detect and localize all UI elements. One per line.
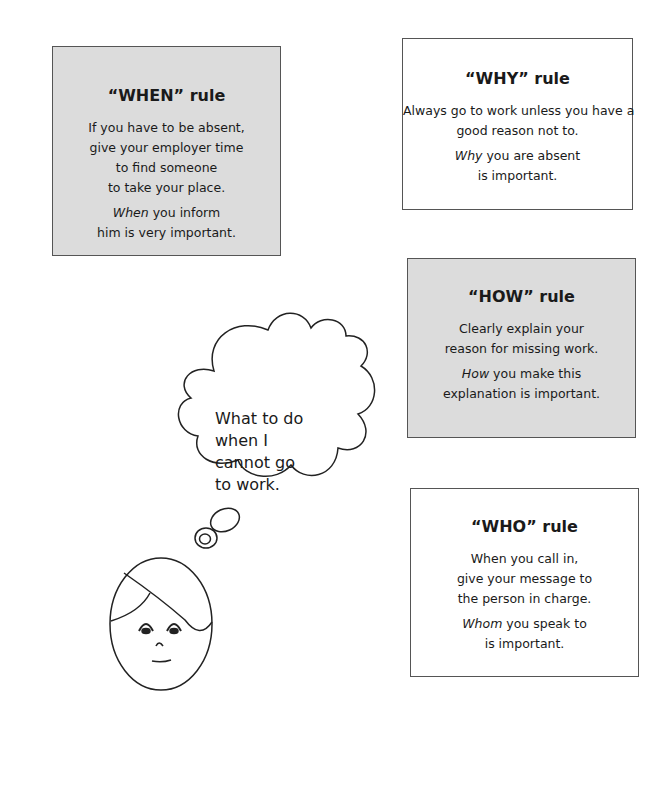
rule-text: good reason not to.: [403, 121, 632, 141]
rule-title: “WHY” rule: [403, 69, 632, 89]
who-rule-card: “WHO” rule When you call in, give your m…: [410, 488, 639, 677]
rule-title: “WHEN” rule: [53, 86, 280, 106]
rule-title: “WHO” rule: [411, 517, 638, 537]
rule-text: give your message to: [411, 569, 638, 589]
rule-text: Clearly explain your: [408, 319, 635, 339]
rule-text: Always go to work unless you have a: [403, 101, 632, 121]
rule-emphasis: Whom you speak to: [411, 614, 638, 634]
rule-text: him is very important.: [53, 223, 280, 243]
rule-text: When you call in,: [411, 549, 638, 569]
emphasis-word: Why: [455, 148, 483, 163]
rule-text: you are absent: [482, 148, 580, 163]
rule-emphasis: How you make this: [408, 364, 635, 384]
thought-line: to work.: [215, 474, 303, 496]
rule-text: is important.: [403, 166, 632, 186]
rule-text: to take your place.: [53, 178, 280, 198]
why-rule-card: “WHY” rule Always go to work unless you …: [402, 38, 633, 210]
emphasis-word: How: [462, 366, 489, 381]
how-rule-card: “HOW” rule Clearly explain your reason f…: [407, 258, 636, 438]
rule-text: the person in charge.: [411, 589, 638, 609]
rule-text: you make this: [489, 366, 581, 381]
rule-text: explanation is important.: [408, 384, 635, 404]
rule-emphasis: Why you are absent: [403, 146, 632, 166]
rule-text: you inform: [149, 205, 220, 220]
rule-text: If you have to be absent,: [53, 118, 280, 138]
thought-line: when I: [215, 430, 303, 452]
thought-line: What to do: [215, 408, 303, 430]
thought-bubble-text: What to do when I cannot go to work.: [215, 408, 303, 496]
rule-text: to find someone: [53, 158, 280, 178]
person-face-icon: [110, 558, 212, 690]
rule-text: give your employer time: [53, 138, 280, 158]
emphasis-word: Whom: [462, 616, 502, 631]
thought-tail-icon: [195, 504, 243, 548]
rule-text: is important.: [411, 634, 638, 654]
when-rule-card: “WHEN” rule If you have to be absent, gi…: [52, 46, 281, 256]
rule-title: “HOW” rule: [408, 287, 635, 307]
emphasis-word: When: [113, 205, 149, 220]
rule-emphasis: When you inform: [53, 203, 280, 223]
thought-line: cannot go: [215, 452, 303, 474]
rule-text: reason for missing work.: [408, 339, 635, 359]
rule-text: you speak to: [502, 616, 586, 631]
